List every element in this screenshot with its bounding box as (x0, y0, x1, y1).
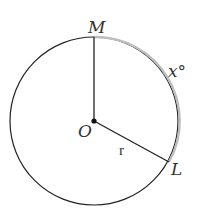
label-m: M (87, 17, 106, 37)
circle-diagram: M O L r x° (0, 0, 199, 216)
label-r: r (119, 142, 124, 158)
label-l: L (170, 159, 182, 179)
label-arc-x: x° (168, 61, 186, 81)
radius-ol (94, 121, 169, 162)
label-o: O (78, 121, 92, 141)
highlighted-arc-ml (94, 37, 180, 162)
center-point (91, 118, 96, 123)
